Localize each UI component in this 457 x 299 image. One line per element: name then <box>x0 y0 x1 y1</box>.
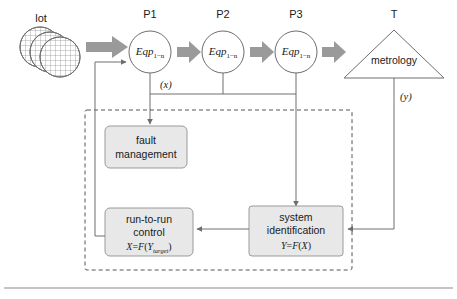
fault-management-line1: fault <box>136 134 156 146</box>
fault-management-line2: management <box>115 148 176 160</box>
system-identification-line2: identification <box>267 224 326 236</box>
p3-body: Eqp <box>281 45 300 57</box>
lot-group: lot <box>20 12 80 77</box>
p2-subscript: 1−n <box>226 52 237 60</box>
lot-label: lot <box>35 12 47 24</box>
metrology-group: T metrology <box>344 8 444 78</box>
metrology-label: metrology <box>371 54 418 66</box>
run-to-run-control-block[interactable]: run-to-run control X=F(Ytarget) <box>105 208 193 256</box>
fault-management-box[interactable] <box>105 126 187 168</box>
run-to-run-control-line1: run-to-run <box>126 213 172 225</box>
signal-y-label: (y) <box>400 91 412 103</box>
block-arrow-lot-to-p1 <box>86 36 128 58</box>
p2-body: Eqp <box>208 45 227 57</box>
fault-management-block[interactable]: fault management <box>105 126 187 168</box>
signal-x-bus: (x) <box>150 73 296 94</box>
p3-subscript: 1−n <box>299 52 310 60</box>
metrology-header: T <box>391 8 398 20</box>
system-identification-formula: Y=F(X) <box>281 240 311 252</box>
run-to-run-control-line2: control <box>133 226 165 238</box>
p1-body: Eqp <box>135 45 154 57</box>
process-step-p1: P1 Eqp1−n <box>129 8 171 73</box>
signal-x-label: (x) <box>160 79 172 91</box>
block-arrow-p1-to-p2 <box>177 41 201 63</box>
p2-header: P2 <box>216 8 229 20</box>
rtr-formula-close: ) <box>168 241 171 253</box>
system-identification-block[interactable]: system identification Y=F(X) <box>249 206 343 256</box>
process-step-p3: P3 Eqp1−n <box>275 8 317 73</box>
p1-subscript: 1−n <box>153 52 164 60</box>
p3-header: P3 <box>289 8 302 20</box>
block-arrow-p3-to-metrology <box>322 41 346 63</box>
process-control-diagram: lot P1 Eqp1−n P2 <box>0 0 457 299</box>
process-step-p2: P2 Eqp1−n <box>202 8 244 73</box>
si-formula-close: ) <box>308 240 311 252</box>
signal-y-path: (y) <box>348 78 412 229</box>
wafer-stack-icon <box>20 27 80 77</box>
p1-header: P1 <box>143 8 156 20</box>
system-identification-line1: system <box>279 211 313 223</box>
block-arrow-p2-to-p3 <box>250 41 274 63</box>
rtr-formula-sub: target <box>153 247 168 254</box>
